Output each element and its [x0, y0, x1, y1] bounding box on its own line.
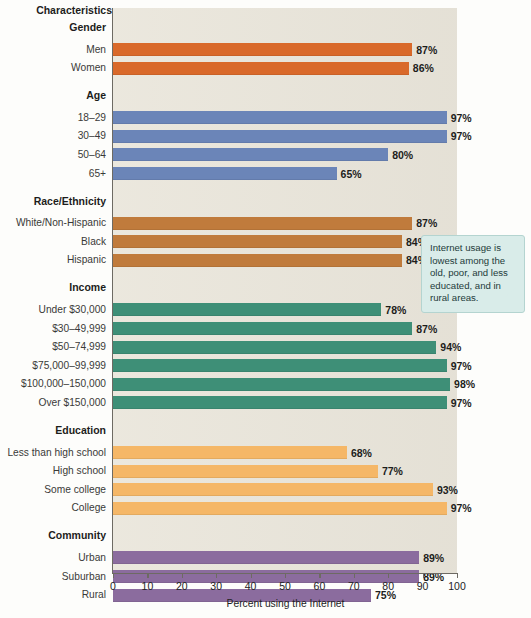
bar-value-label: 87% — [416, 217, 437, 229]
x-tick — [182, 573, 183, 578]
bar-value-label: 80% — [392, 149, 413, 161]
row-label: 30–49 — [0, 130, 106, 141]
callout-annotation: Internet usage is lowest among the old, … — [421, 235, 525, 313]
bar — [113, 359, 447, 372]
x-tick — [251, 573, 252, 578]
bar — [113, 167, 337, 180]
x-tick-label: 40 — [245, 580, 257, 592]
bar — [113, 303, 381, 316]
bar-value-label: 94% — [440, 341, 461, 353]
row-label: Black — [0, 236, 106, 247]
group-label-gender: Gender — [0, 21, 106, 33]
bar — [113, 570, 419, 583]
x-tick-label: 10 — [142, 580, 154, 592]
x-tick-label: 70 — [348, 580, 360, 592]
row-label: Rural — [0, 589, 106, 600]
row-label: Under $30,000 — [0, 304, 106, 315]
bar-value-label: 87% — [416, 44, 437, 56]
row-label: Hispanic — [0, 254, 106, 265]
x-tick — [147, 573, 148, 578]
bar — [113, 217, 412, 230]
x-tick-label: 100 — [448, 580, 466, 592]
bar — [113, 130, 447, 143]
group-label-education: Education — [0, 424, 106, 436]
x-tick-label: 20 — [176, 580, 188, 592]
row-label: $50–74,999 — [0, 341, 106, 352]
bar — [113, 235, 402, 248]
x-tick-label: 0 — [110, 580, 116, 592]
bar-value-label: 89% — [423, 552, 444, 564]
bar — [113, 43, 412, 56]
characteristics-header: Characteristics — [0, 4, 112, 16]
callout-text: Internet usage is lowest among the old, … — [430, 242, 508, 303]
bar-value-label: 65% — [341, 168, 362, 180]
x-tick — [319, 573, 320, 578]
x-tick — [285, 573, 286, 578]
row-label: Women — [0, 62, 106, 73]
row-label: $100,000–150,000 — [0, 378, 106, 389]
row-label: Suburban — [0, 571, 106, 582]
x-tick — [354, 573, 355, 578]
bar-value-label: 87% — [416, 323, 437, 335]
bar-value-label: 78% — [385, 304, 406, 316]
x-tick-label: 50 — [279, 580, 291, 592]
row-label: Less than high school — [0, 447, 106, 458]
row-label: Urban — [0, 552, 106, 563]
row-label: $30–49,999 — [0, 323, 106, 334]
chart-figure: Characteristics GenderMen87%Women86%Age1… — [0, 0, 531, 618]
group-label-community: Community — [0, 529, 106, 541]
group-label-income: Income — [0, 281, 106, 293]
x-tick — [423, 573, 424, 578]
x-tick — [388, 573, 389, 578]
x-tick-label: 60 — [314, 580, 326, 592]
x-tick-label: 90 — [417, 580, 429, 592]
group-label-age: Age — [0, 89, 106, 101]
bar — [113, 551, 419, 564]
bar-value-label: 98% — [454, 378, 475, 390]
bar-value-label: 68% — [351, 447, 372, 459]
bar — [113, 483, 433, 496]
row-label: Some college — [0, 484, 106, 495]
y-axis-line — [112, 8, 113, 573]
row-label: $75,000–99,999 — [0, 360, 106, 371]
bar — [113, 111, 447, 124]
x-tick — [113, 573, 114, 578]
row-label: High school — [0, 465, 106, 476]
bar — [113, 62, 409, 75]
bar — [113, 254, 402, 267]
bar-value-label: 93% — [437, 484, 458, 496]
bar — [113, 396, 447, 409]
row-label: 18–29 — [0, 112, 106, 123]
bar — [113, 322, 412, 335]
row-label: 65+ — [0, 168, 106, 179]
x-tick — [216, 573, 217, 578]
x-axis-title: Percent using the Internet — [113, 598, 458, 609]
x-tick-label: 80 — [382, 580, 394, 592]
bar-value-label: 86% — [413, 62, 434, 74]
bar-value-label: 97% — [451, 502, 472, 514]
row-label: College — [0, 502, 106, 513]
bar-value-label: 97% — [451, 360, 472, 372]
row-label: 50–64 — [0, 149, 106, 160]
bar — [113, 446, 347, 459]
bar — [113, 502, 447, 515]
x-tick-label: 30 — [210, 580, 222, 592]
bar-value-label: 77% — [382, 465, 403, 477]
bar-value-label: 97% — [451, 112, 472, 124]
x-tick — [457, 573, 458, 578]
group-label-race-ethnicity: Race/Ethnicity — [0, 195, 106, 207]
bar — [113, 148, 388, 161]
row-label: Men — [0, 44, 106, 55]
bar — [113, 465, 378, 478]
bar — [113, 341, 436, 354]
bar-value-label: 97% — [451, 397, 472, 409]
bar-value-label: 97% — [451, 130, 472, 142]
row-label: Over $150,000 — [0, 397, 106, 408]
bar — [113, 378, 450, 391]
row-label: White/Non-Hispanic — [0, 217, 106, 228]
callout-tail-icon — [505, 288, 516, 297]
